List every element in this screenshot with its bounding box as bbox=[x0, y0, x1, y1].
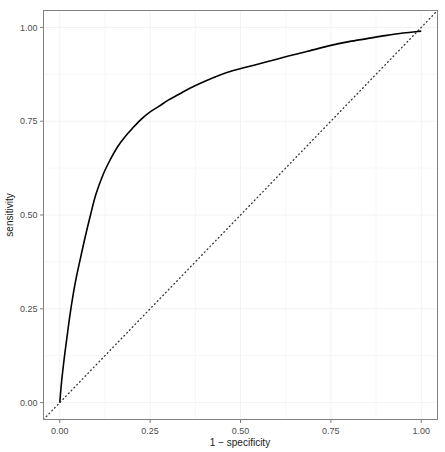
y-tick-label: 0.75 bbox=[20, 116, 38, 126]
x-tick-label: 0.25 bbox=[141, 426, 159, 436]
x-axis-title: 1 − specificity bbox=[210, 437, 270, 448]
y-tick-label: 0.25 bbox=[20, 304, 38, 314]
x-tick-label: 0.50 bbox=[232, 426, 250, 436]
y-tick-label: 1.00 bbox=[20, 23, 38, 33]
y-tick-label: 0.00 bbox=[20, 398, 38, 408]
roc-plot-figure: 0.000.250.500.751.00 0.000.250.500.751.0… bbox=[0, 0, 445, 452]
y-axis-title: sensitivity bbox=[4, 193, 15, 236]
plot-canvas: 0.000.250.500.751.00 0.000.250.500.751.0… bbox=[0, 0, 445, 452]
x-tick-label: 0.75 bbox=[322, 426, 340, 436]
x-tick-label: 1.00 bbox=[412, 426, 430, 436]
y-tick-label: 0.50 bbox=[20, 210, 38, 220]
x-tick-label: 0.00 bbox=[51, 426, 69, 436]
